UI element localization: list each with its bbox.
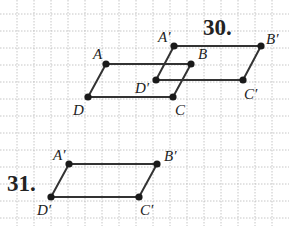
vertex-point	[47, 193, 54, 200]
shapes	[47, 42, 264, 200]
grid	[0, 0, 289, 226]
vertex-label: C′	[140, 202, 154, 218]
vertex-point	[169, 93, 176, 100]
vertex-point	[239, 76, 246, 83]
vertex-label: D	[72, 102, 84, 118]
vertex-point	[152, 76, 159, 83]
vertex-label: D′	[36, 202, 52, 218]
vertex-label: B	[198, 46, 207, 62]
parallelogram-translation-diagram: 30.ABCDA′B′C′D′31.A′B′C′D′	[0, 0, 289, 226]
vertex-point	[65, 160, 72, 167]
graph-paper-figure: 30.ABCDA′B′C′D′31.A′B′C′D′	[0, 0, 289, 226]
vertex-label: D′	[134, 80, 150, 96]
vertex-point	[187, 60, 194, 67]
vertex-point	[153, 160, 160, 167]
vertex-point	[170, 42, 177, 49]
vertex-label: C′	[244, 86, 258, 102]
vertex-label: B′	[164, 148, 177, 164]
problem-number: 31.	[7, 171, 36, 196]
vertex-label: B′	[266, 31, 279, 47]
vertex-point	[84, 93, 91, 100]
vertex-label: A	[92, 46, 103, 62]
problem-number: 30.	[203, 15, 232, 40]
vertex-point	[135, 193, 142, 200]
vertex-label: C	[175, 102, 186, 118]
vertex-point	[257, 42, 264, 49]
vertex-label: A′	[52, 147, 66, 163]
parallelogram-image	[51, 164, 157, 197]
vertex-label: A′	[157, 29, 171, 45]
vertex-point	[102, 60, 109, 67]
